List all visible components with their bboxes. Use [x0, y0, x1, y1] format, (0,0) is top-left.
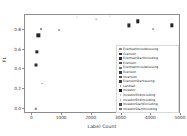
y-tick-label: 0.8: [6, 26, 21, 31]
data-point: [34, 107, 36, 109]
data-point: [76, 17, 77, 18]
legend-item[interactable]: InvestorStartIncluding: [118, 107, 177, 112]
data-point: [152, 28, 154, 30]
data-point: [109, 16, 110, 17]
x-tick-label: 4000: [145, 115, 156, 120]
data-point: [58, 29, 60, 31]
data-point: [37, 34, 40, 37]
chart-legend: EventsetIncludeIssuingEversionEventsetSt…: [116, 45, 179, 113]
x-tick-label: 3000: [115, 115, 126, 120]
data-point: [35, 50, 38, 53]
y-tick-label: 0.6: [6, 46, 21, 51]
data-point: [40, 28, 42, 30]
x-tick-label: 0: [30, 115, 33, 120]
scatter-chart-figure: F1 Label Count EventsetIncludeIssuingEve…: [0, 0, 187, 136]
data-point: [127, 24, 130, 27]
data-point: [170, 24, 173, 27]
y-tick-label: 0.0: [6, 106, 21, 111]
x-tick-label: 2000: [85, 115, 96, 120]
data-point: [96, 19, 97, 20]
y-tick-mark: [22, 108, 24, 109]
legend-item-label: InvestorStartIncluding: [123, 107, 177, 112]
x-tick-label: 5000: [175, 115, 186, 120]
y-tick-mark: [22, 68, 24, 69]
y-tick-mark: [22, 29, 24, 30]
data-point: [34, 63, 37, 66]
x-axis-label: Label Count: [24, 124, 180, 129]
y-tick-mark: [22, 88, 24, 89]
y-tick-mark: [22, 49, 24, 50]
y-tick-label: 0.4: [6, 66, 21, 71]
data-point: [136, 20, 139, 23]
data-point: [41, 83, 43, 85]
x-tick-label: 1000: [56, 115, 67, 120]
y-tick-label: 0.2: [6, 86, 21, 91]
